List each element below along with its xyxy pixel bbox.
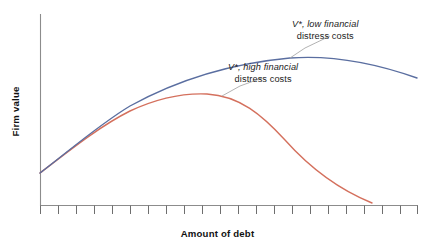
annotation-high-distress: V*, high financial distress costs xyxy=(228,62,298,85)
x-axis-ticks xyxy=(41,206,418,215)
annotation-low-line2: distress costs xyxy=(297,31,354,41)
annotation-low-distress: V*, low financial distress costs xyxy=(292,19,359,42)
chart-figure: V*, low financial distress costs V*, hig… xyxy=(0,0,435,249)
chart-plot-area xyxy=(0,0,435,249)
annotation-high-line1: V*, high financial xyxy=(228,62,298,72)
y-axis-title: Firm value xyxy=(10,72,21,152)
curve-high-distress xyxy=(40,94,372,203)
x-axis-title: Amount of debt xyxy=(0,228,435,239)
annotation-low-line1: V*, low financial xyxy=(292,19,359,29)
annotation-high-line2: distress costs xyxy=(235,74,292,84)
